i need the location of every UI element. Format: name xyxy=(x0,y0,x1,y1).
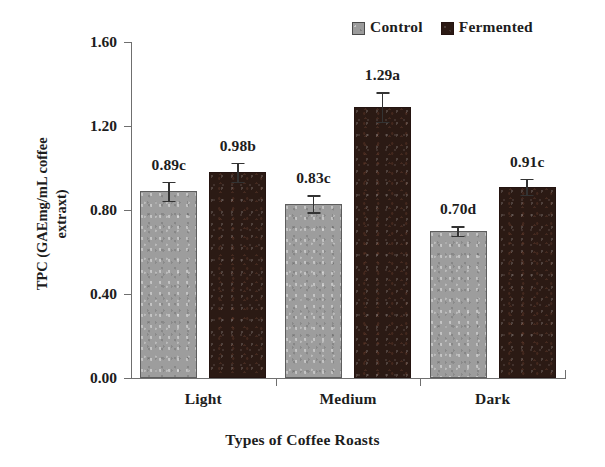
x-axis-label-light: Light xyxy=(185,390,222,408)
error-bar-cap-top xyxy=(307,195,320,197)
error-bar-cap-bottom xyxy=(452,236,465,238)
bar-medium-fermented[interactable] xyxy=(354,107,411,378)
bar-medium-control[interactable] xyxy=(285,204,342,378)
data-label: 0.83c xyxy=(296,169,331,187)
y-axis-tick-label: 0.80 xyxy=(90,201,117,219)
x-axis-right-cap xyxy=(565,370,566,379)
y-axis-tick-label: 0.40 xyxy=(90,285,117,303)
y-axis-title: TPC (GAEmg/mL coffee extraxt) xyxy=(28,98,76,330)
error-bar-cap-top xyxy=(231,163,244,165)
legend-swatch-fermented-icon xyxy=(441,22,454,35)
y-axis-tick-label: 1.20 xyxy=(90,117,117,135)
y-axis-tick-label: 0.00 xyxy=(90,369,117,387)
x-axis-tick xyxy=(420,378,421,386)
error-bar-cap-top xyxy=(521,179,534,181)
error-bar-cap-top xyxy=(162,182,175,184)
y-axis-title-line1: TPC (GAEmg/mL coffee xyxy=(33,137,52,290)
data-label: 0.70d xyxy=(440,200,476,218)
bar-dark-control[interactable] xyxy=(430,231,487,378)
error-bar-cap-top xyxy=(376,92,389,94)
bar-light-control[interactable] xyxy=(140,191,197,378)
legend-item-control: Control xyxy=(352,18,423,36)
y-axis-tick: 1.60 xyxy=(124,42,131,43)
error-bar-cap-bottom xyxy=(521,195,534,197)
legend-label-control: Control xyxy=(370,18,423,36)
error-bar-cap-top xyxy=(452,226,465,228)
y-axis-line xyxy=(131,42,132,378)
y-axis-tick: 0.40 xyxy=(124,294,131,295)
x-axis-title: Types of Coffee Roasts xyxy=(0,431,605,449)
y-axis-tick-label: 1.60 xyxy=(90,33,117,51)
x-axis-label-dark: Dark xyxy=(475,390,510,408)
bar-light-fermented[interactable] xyxy=(209,172,266,378)
error-bar xyxy=(168,182,170,201)
legend-swatch-control-icon xyxy=(352,22,365,35)
error-bar-cap-bottom xyxy=(307,212,320,214)
y-axis-tick: 1.20 xyxy=(124,126,131,127)
bar-dark-fermented[interactable] xyxy=(499,187,556,378)
plot-area: 0.000.400.801.201.60 0.89c0.98b0.83c1.29… xyxy=(131,42,565,378)
data-label: 0.98b xyxy=(220,137,256,155)
error-bar xyxy=(526,179,528,195)
error-bar-cap-bottom xyxy=(231,182,244,184)
data-label: 0.89c xyxy=(152,156,187,174)
y-axis-tick: 0.00 xyxy=(124,378,131,379)
data-label: 0.91c xyxy=(510,153,545,171)
legend-item-fermented: Fermented xyxy=(441,18,533,36)
error-bar xyxy=(237,163,239,182)
x-axis-label-medium: Medium xyxy=(319,390,376,408)
chart-legend: Control Fermented xyxy=(352,18,533,36)
y-axis-tick: 0.80 xyxy=(124,210,131,211)
data-label: 1.29a xyxy=(365,66,400,84)
error-bar xyxy=(313,195,315,212)
bar-chart-figure: Control Fermented TPC (GAEmg/mL coffee e… xyxy=(0,0,605,467)
error-bar-cap-bottom xyxy=(162,201,175,203)
legend-label-fermented: Fermented xyxy=(459,18,533,36)
error-bar xyxy=(382,92,384,121)
error-bar-cap-bottom xyxy=(376,122,389,124)
x-axis-line xyxy=(125,378,566,379)
y-axis-title-line2: extraxt) xyxy=(52,137,71,290)
x-axis-tick xyxy=(276,378,277,386)
